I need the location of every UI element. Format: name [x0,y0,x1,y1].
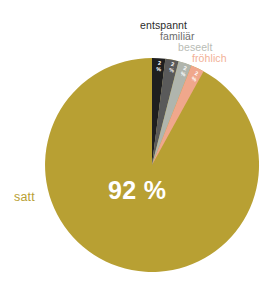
slice-label-beseelt: beseelt [178,42,213,53]
slice-label-satt: satt [14,191,35,204]
slice-label-entspannt: entspannt [140,20,187,31]
slice-value-satt: 92 % [108,178,166,203]
pie-slices [45,58,259,272]
slice-label-familiaer: familiär [160,31,195,42]
pie-chart-canvas [0,0,280,290]
slice-value-entspannt: 2 % [154,61,163,73]
slice-label-froehlich: fröhlich [192,53,227,64]
pie-chart: 2 % 2 % 2 % 2 % entspannt familiär besee… [0,0,280,290]
